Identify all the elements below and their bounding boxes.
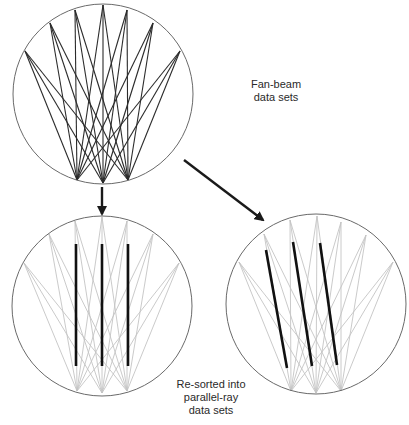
fan-ray: [239, 262, 316, 393]
fan-ray: [128, 51, 180, 180]
fan-rays: [25, 5, 180, 183]
fan-beam-label-line-1: Fan-beam: [243, 78, 309, 91]
fan-ray: [103, 10, 127, 183]
fan-ray: [102, 263, 179, 393]
resorted-label-line-3: data sets: [170, 404, 252, 417]
fan-beam-circle: [13, 4, 193, 184]
fan-ray: [75, 10, 77, 180]
fan-ray: [25, 51, 103, 183]
resorted-label-line-1: Re-sorted into: [170, 378, 252, 391]
fan-ray: [24, 263, 77, 391]
fan-ray: [290, 220, 291, 391]
fan-ray: [127, 10, 128, 180]
fan-beam-resorting-diagram: [0, 0, 409, 425]
fan-ray: [24, 263, 102, 393]
fan-beam-label: Fan-beam data sets: [243, 78, 309, 104]
resorted-label-line-2: parallel-ray: [170, 391, 252, 404]
fan-ray: [341, 262, 393, 391]
fan-ray: [290, 220, 341, 391]
fan-ray: [128, 23, 153, 180]
diagonal-arrow: [184, 160, 263, 220]
fan-ray: [50, 23, 77, 180]
fan-ray: [239, 262, 291, 391]
parallel-vertical-circle: [12, 216, 192, 396]
parallel-ray: [266, 250, 287, 368]
fan-ray: [127, 263, 179, 391]
fan-ray: [127, 234, 153, 391]
fan-ray: [25, 51, 77, 180]
fan-beam-label-line-2: data sets: [243, 91, 309, 104]
resorted-label: Re-sorted into parallel-ray data sets: [170, 378, 252, 417]
fan-rays: [239, 216, 393, 393]
fan-ray: [341, 235, 366, 391]
parallel-oblique-circle: [226, 214, 406, 394]
fan-ray: [316, 216, 317, 393]
